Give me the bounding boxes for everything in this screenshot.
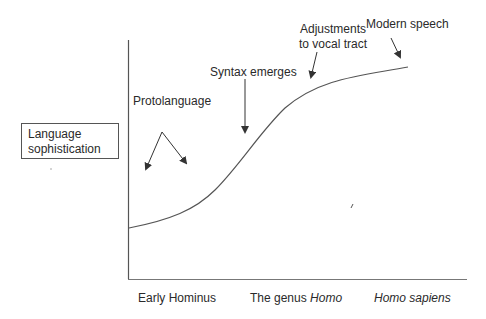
x-tick-early-hominus-text: Early Hominus bbox=[138, 291, 216, 305]
y-axis-label-box: Language sophistication bbox=[21, 123, 119, 159]
y-axis-label-line-2: sophistication bbox=[28, 142, 112, 157]
stray-dot bbox=[50, 168, 51, 169]
x-tick-early-hominus: Early Hominus bbox=[138, 291, 216, 306]
modern-speech-arrow bbox=[391, 38, 400, 57]
annotation-vocal-tract-line-2: to vocal tract bbox=[283, 37, 383, 52]
protolanguage-arrow-left bbox=[146, 132, 162, 169]
y-axis-label-line-1: Language bbox=[28, 127, 112, 142]
x-tick-homo-sapiens: Homo sapiens bbox=[374, 291, 451, 306]
stray-mark bbox=[351, 204, 353, 208]
vocal-tract-arrow bbox=[311, 52, 317, 77]
x-tick-genus-homo: The genus Homo bbox=[250, 291, 342, 306]
annotation-modern-speech: Modern speech bbox=[366, 17, 449, 32]
annotation-syntax-emerges: Syntax emerges bbox=[210, 65, 297, 80]
annotation-protolanguage: Protolanguage bbox=[133, 94, 211, 109]
x-tick-genus-homo-italic: Homo bbox=[310, 291, 342, 305]
x-tick-genus-homo-plain: The genus bbox=[250, 291, 310, 305]
diagram-canvas bbox=[0, 0, 486, 319]
x-tick-homo-sapiens-text: Homo sapiens bbox=[374, 291, 451, 305]
protolanguage-arrow-right bbox=[162, 132, 186, 163]
sophistication-curve bbox=[129, 67, 408, 228]
